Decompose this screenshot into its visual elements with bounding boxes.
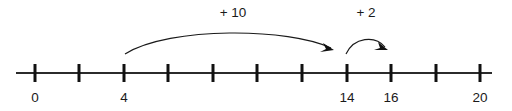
tick-label-16: 16 — [383, 90, 398, 105]
tick-label-4: 4 — [120, 90, 128, 105]
tick-label-20: 20 — [472, 90, 487, 105]
jump-label-plus-two: + 2 — [356, 5, 375, 20]
tick-label-14: 14 — [339, 90, 355, 105]
number-line-svg: 0 4 14 16 20 + 10 + 2 — [0, 0, 512, 111]
jump-arc-plus-ten — [125, 33, 331, 54]
number-line-diagram: 0 4 14 16 20 + 10 + 2 — [0, 0, 512, 111]
jump-label-plus-ten: + 10 — [220, 5, 247, 20]
tick-label-0: 0 — [31, 90, 39, 105]
jump-arc-plus-two — [346, 39, 385, 54]
